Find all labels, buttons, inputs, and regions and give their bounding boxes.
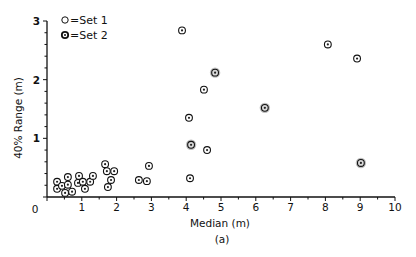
y-tick-label: 3 [33,15,40,27]
data-point [356,158,366,168]
legend-set1-icon [62,17,68,23]
data-point [210,67,220,77]
data-point [79,178,86,185]
ticks: 012345678910123 [32,15,402,215]
data-point [187,175,194,182]
x-tick-label: 8 [322,201,329,213]
data-point [64,181,71,188]
legend: =Set 1 =Set 2 [62,14,108,42]
data-point [102,161,109,168]
x-tick-label: 6 [252,201,259,213]
x-tick-label: 9 [357,201,364,213]
data-point [186,140,196,150]
legend-set2-dot [64,34,66,36]
x-tick-label: 0 [32,203,39,215]
data-point [204,147,211,154]
data-point [111,168,118,175]
legend-set1-label: =Set 1 [70,14,108,27]
data-point [201,86,208,93]
data-point [62,189,69,196]
data-point [354,55,361,62]
x-tick-label: 7 [287,201,294,213]
chart-caption: (a) [215,233,230,245]
y-tick-label: 1 [33,132,40,144]
scatter-chart: 012345678910123 =Set 1 =Set 2 40% Range … [0,0,416,257]
legend-set2-label: =Set 2 [70,29,108,42]
x-tick-label: 1 [78,201,85,213]
y-axis-label: 40% Range (m) [12,77,24,159]
data-point [108,177,115,184]
x-tick-label: 2 [113,201,120,213]
x-tick-label: 10 [388,201,401,213]
data-point [324,41,331,48]
data-point [186,114,193,121]
data-point [135,177,142,184]
data-point [143,178,150,185]
y-tick-label: 2 [33,74,40,86]
data-point [64,174,71,181]
axes [47,21,395,197]
x-tick-label: 3 [148,201,155,213]
x-axis-label: Median (m) [190,217,250,229]
x-tick-label: 4 [183,201,190,213]
data-point [69,188,76,195]
data-points [54,27,366,196]
data-point [260,103,270,113]
data-point [103,168,110,175]
x-tick-label: 5 [218,201,225,213]
data-point [179,27,186,34]
data-point [82,185,89,192]
data-point [90,172,97,179]
data-point [105,184,112,191]
data-point [146,163,153,170]
